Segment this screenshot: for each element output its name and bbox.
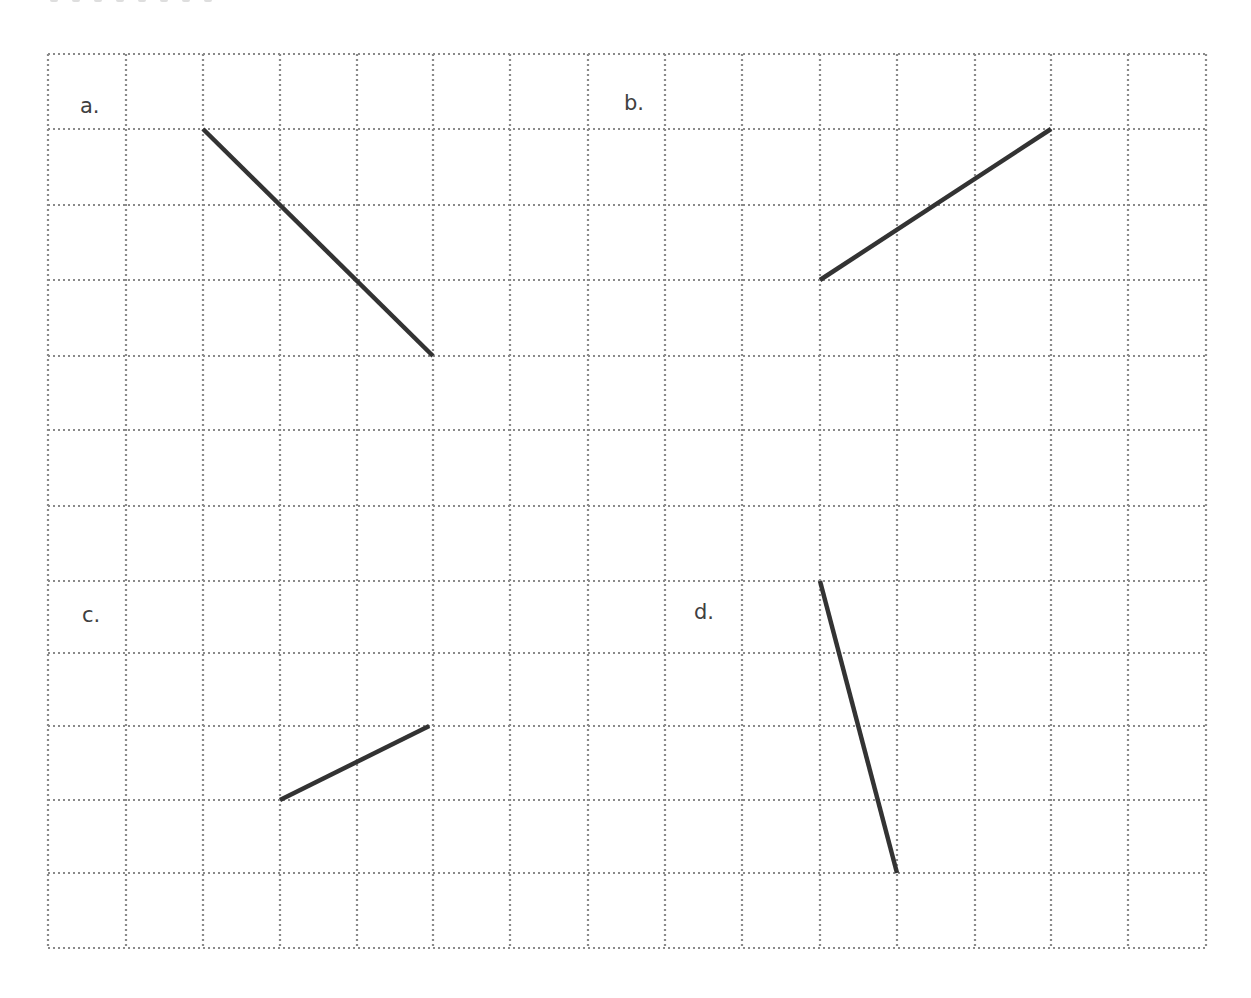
grid-worksheet: a. b. c. d.	[0, 0, 1251, 998]
panel-label-d: d.	[694, 602, 714, 623]
line-segment-c	[280, 726, 429, 800]
panel-label-a: a.	[80, 96, 100, 117]
panel-label-b: b.	[624, 93, 644, 114]
panel-label-c: c.	[82, 605, 100, 626]
dotted-grid	[0, 0, 1251, 998]
line-segment-d	[820, 581, 897, 873]
line-segment-a	[203, 129, 433, 356]
